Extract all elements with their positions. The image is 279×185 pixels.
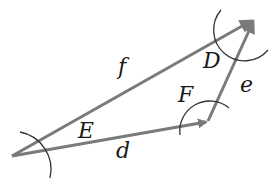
vector-triangle-diagram: f d e E F D [0,0,279,185]
label-F: F [177,82,194,107]
angle-arc-D [214,10,268,61]
label-f: f [116,54,130,79]
label-E: E [77,118,94,143]
label-D: D [202,48,221,73]
label-e: e [240,72,253,97]
label-d: d [116,138,130,163]
